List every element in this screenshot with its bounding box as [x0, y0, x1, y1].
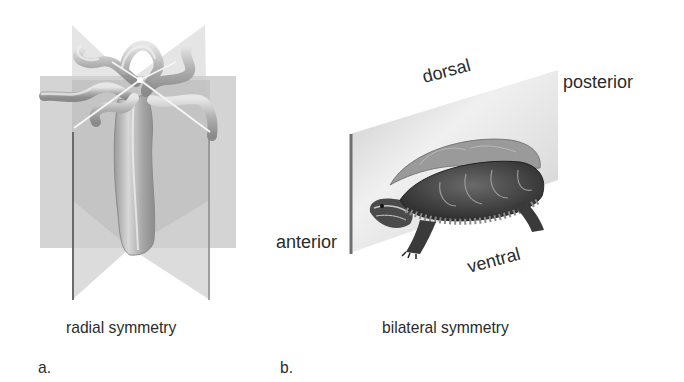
- panel-letter-a: a.: [38, 358, 51, 378]
- hydra-illustration: [0, 0, 270, 320]
- label-anterior: anterior: [276, 233, 337, 251]
- panel-a: radial symmetry a.: [0, 0, 270, 382]
- label-posterior: posterior: [563, 73, 633, 91]
- panel-letter-b: b.: [280, 358, 293, 378]
- panel-b: dorsal posterior anterior ventral bilate…: [270, 0, 684, 382]
- caption-radial-symmetry: radial symmetry: [66, 318, 176, 338]
- caption-bilateral-symmetry: bilateral symmetry: [382, 318, 509, 338]
